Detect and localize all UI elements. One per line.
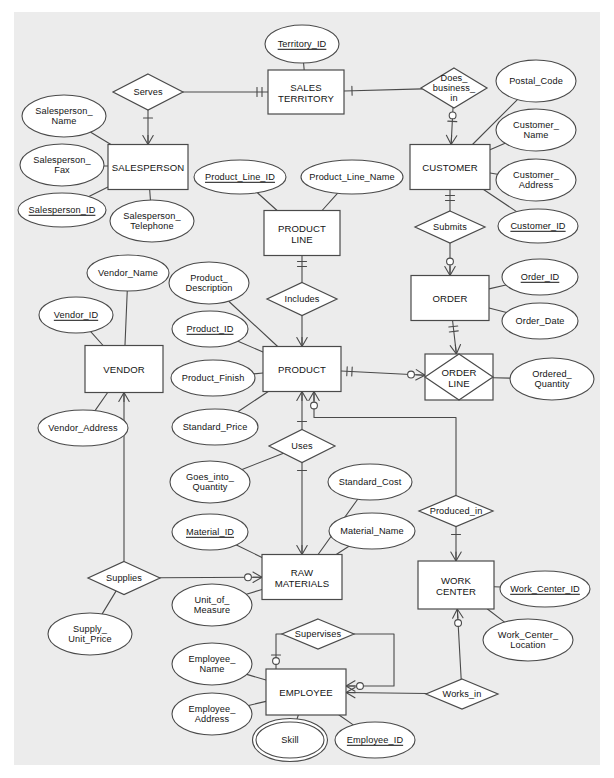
crowsfoot-prong — [314, 392, 319, 401]
crowsfoot-prong — [297, 546, 302, 555]
entity-box-product[interactable] — [263, 347, 341, 392]
attribute-ellipse-postal_code[interactable] — [496, 60, 576, 102]
attribute-ellipse-salesperson_id[interactable] — [18, 193, 106, 227]
attribute-ellipse-product_finish[interactable] — [171, 360, 255, 396]
relationship-diamond-submits[interactable] — [415, 211, 485, 243]
attribute-connector — [249, 701, 266, 705]
attribute-ellipse-territory_id[interactable] — [265, 25, 339, 63]
attribute-ellipse-work_center_id[interactable] — [500, 571, 590, 607]
attribute-ellipse-vendor_id[interactable] — [39, 297, 113, 333]
attribute-ellipse-customer_address[interactable] — [496, 159, 576, 201]
entity-box-employee[interactable] — [266, 669, 346, 715]
crowsfoot-prong — [297, 392, 302, 401]
entity-box-order[interactable] — [411, 276, 489, 321]
doesbusinessin-salesterritory-line — [344, 89, 422, 91]
attribute-ellipse-supply_unit_price[interactable] — [48, 613, 132, 655]
attribute-ellipse-salesperson_telephone[interactable] — [110, 200, 194, 242]
attribute-connector — [489, 285, 506, 289]
relationship-diamond-includes[interactable] — [267, 283, 337, 316]
attribute-ellipse-unit_of_measure[interactable] — [172, 584, 252, 626]
attribute-connector — [238, 341, 263, 352]
crowsfoot-prong — [124, 393, 129, 402]
attribute-ellipse-ordered_quantity[interactable] — [510, 358, 594, 400]
attribute-connector — [242, 453, 283, 469]
crowsfoot-prong — [446, 135, 451, 144]
crowsfoot-prong — [143, 136, 148, 145]
crowsfoot-prong — [456, 344, 460, 354]
attribute-ellipse-employee_id[interactable] — [335, 722, 415, 758]
attribute-ellipse-salesperson_name[interactable] — [22, 95, 106, 137]
attribute-ellipse-employee_address[interactable] — [172, 693, 252, 735]
crowsfoot-prong — [445, 267, 450, 276]
attribute-ellipse-standard_price[interactable] — [172, 409, 258, 445]
attribute-ellipse-material_id[interactable] — [172, 514, 248, 550]
crowsfoot-prong — [451, 552, 456, 561]
cardinality-one-bar — [449, 331, 458, 332]
attribute-ellipse-product_line_id[interactable] — [194, 160, 286, 194]
cardinality-optional-circle — [245, 574, 252, 581]
crowsfoot-prong — [450, 267, 455, 276]
entity-box-customer[interactable] — [410, 145, 490, 190]
attribute-ellipse-material_name[interactable] — [329, 513, 415, 549]
attribute-connector — [490, 173, 498, 174]
attribute-connector — [91, 132, 111, 144]
attribute-ellipse-order_id[interactable] — [502, 259, 578, 295]
attribute-connector — [490, 143, 505, 149]
crowsfoot-prong — [456, 552, 461, 561]
attribute-connector — [95, 393, 108, 411]
attribute-ellipse-product_id[interactable] — [172, 311, 248, 347]
attribute-ellipse-employee_name[interactable] — [172, 643, 252, 685]
crowsfoot-prong — [297, 338, 302, 347]
crowsfoot-prong — [253, 577, 262, 582]
relationship-diamond-produced_in[interactable] — [419, 496, 493, 527]
attribute-ellipse-customer_id[interactable] — [498, 209, 578, 243]
attribute-connector — [91, 332, 103, 346]
attribute-connector — [246, 589, 262, 594]
relationship-diamond-serves[interactable] — [113, 74, 183, 110]
attribute-ellipse-salesperson_fax[interactable] — [20, 144, 104, 186]
relationship-diamond-supplies[interactable] — [88, 562, 160, 595]
relationship-diamond-works_in[interactable] — [426, 679, 498, 709]
attribute-connector — [339, 715, 353, 725]
attribute-ellipse-work_center_location[interactable] — [483, 619, 573, 661]
attribute-connector — [254, 373, 263, 374]
attribute-ellipse-skill[interactable] — [256, 722, 324, 758]
attribute-ellipse-vendor_address[interactable] — [38, 410, 128, 446]
cardinality-optional-circle — [449, 112, 456, 119]
attribute-ellipse-vendor_name[interactable] — [87, 255, 169, 291]
crowsfoot-prong — [119, 393, 124, 402]
attribute-ellipse-product_line_name[interactable] — [301, 160, 403, 194]
attribute-connector — [125, 291, 127, 346]
relationship-diamond-uses[interactable] — [269, 430, 335, 463]
attribute-connector — [89, 187, 108, 197]
attribute-ellipse-order_date[interactable] — [502, 303, 578, 339]
attribute-connector — [150, 190, 151, 201]
relationship-diamond-does_business_in[interactable] — [421, 68, 487, 108]
cardinality-optional-circle — [455, 620, 462, 627]
crowsfoot-prong — [346, 693, 355, 698]
entity-box-sales_territory[interactable] — [268, 70, 344, 114]
attribute-ellipse-standard_cost[interactable] — [328, 464, 412, 500]
crowsfoot-prong — [148, 136, 153, 145]
attribute-ellipse-customer_name[interactable] — [496, 109, 576, 151]
crowsfoot-prong — [302, 338, 307, 347]
cardinality-optional-circle — [357, 683, 364, 690]
entity-box-work_center[interactable] — [418, 561, 494, 609]
attribute-ellipse-goes_into_quantity[interactable] — [170, 461, 250, 503]
entity-box-product_line[interactable] — [264, 211, 340, 256]
attribute-connector — [257, 193, 277, 211]
attribute-ellipse-product_description[interactable] — [169, 262, 249, 304]
attribute-connector — [489, 308, 507, 312]
entity-box-salesperson[interactable] — [108, 145, 188, 190]
attribute-connector — [238, 392, 268, 412]
crowsfoot-prong — [302, 546, 307, 555]
crowsfoot-prong — [309, 392, 314, 401]
crowsfoot-prong — [253, 572, 262, 577]
attribute-connector — [247, 674, 266, 680]
er-diagram-screenshot: SALESTERRITORYSALESPERSONCUSTOMERPRODUCT… — [0, 0, 614, 778]
attribute-connector — [236, 545, 262, 558]
entity-box-raw_materials[interactable] — [262, 555, 342, 600]
crowsfoot-prong — [453, 609, 458, 618]
entity-box-vendor[interactable] — [85, 346, 163, 393]
relationship-diamond-supervises[interactable] — [282, 619, 354, 649]
